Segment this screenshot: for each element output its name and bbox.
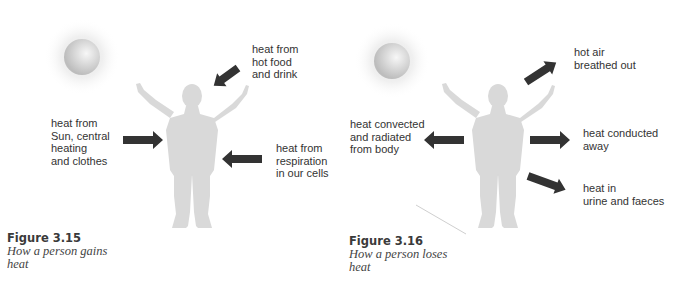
arrow-heat-out-conduction-icon: [530, 131, 570, 149]
sun-icon: [354, 23, 430, 99]
arrow-heat-out-convection-icon: [424, 131, 464, 149]
figure-3-15-panel: heat from hot food and drink heat from S…: [0, 0, 346, 302]
figure-caption: How a person loses heat: [349, 248, 469, 274]
label-hot-air-breathed-out: hot air breathed out: [574, 46, 636, 71]
label-heat-from-sun: heat from Sun, central heating and cloth…: [51, 117, 110, 167]
label-heat-in-urine-faeces: heat in urine and faeces: [583, 182, 664, 207]
figure-number: Figure 3.15: [7, 231, 81, 245]
label-heat-conducted-away: heat conducted away: [583, 127, 658, 152]
figure-3-16-panel: hot air breathed out heat convected and …: [346, 0, 692, 302]
label-heat-from-food: heat from hot food and drink: [252, 43, 298, 81]
label-heat-convected-radiated: heat convected and radiated from body: [350, 118, 425, 156]
arrow-heat-in-food-icon: [209, 62, 243, 93]
arrow-heat-out-excretion-icon: [525, 168, 568, 197]
arrow-heat-out-breath-icon: [522, 56, 561, 89]
arrow-heat-in-respiration-icon: [222, 150, 262, 168]
arrow-heat-in-sun-icon: [123, 131, 163, 149]
label-heat-from-respiration: heat from respiration in our cells: [276, 142, 329, 180]
figure-caption: How a person gains heat: [7, 245, 127, 271]
sun-icon: [44, 19, 120, 95]
human-figure-icon: [442, 83, 555, 228]
figure-number: Figure 3.16: [349, 234, 423, 248]
